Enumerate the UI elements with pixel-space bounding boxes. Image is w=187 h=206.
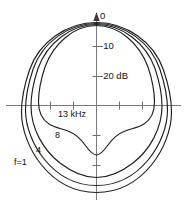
polar-directivity-chart: 0 -10 -20 dB 13 kHz 8 4 f=1 — [0, 0, 187, 206]
radial-label-minus20-db: -20 dB — [100, 71, 128, 81]
polar-plot-canvas — [0, 0, 187, 206]
radial-label-0: 0 — [100, 11, 105, 21]
curve-label-13khz: 13 kHz — [58, 110, 86, 119]
radial-label-minus10: -10 — [100, 41, 114, 51]
axis-arrow-icon — [93, 12, 99, 21]
curve-label-f1: f=1 — [14, 158, 27, 167]
curve-label-8: 8 — [55, 131, 60, 140]
curve-label-4: 4 — [36, 146, 41, 155]
